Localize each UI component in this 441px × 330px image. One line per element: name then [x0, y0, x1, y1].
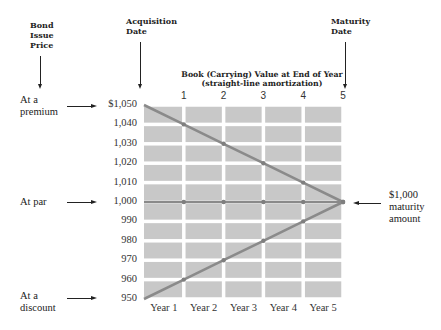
data-point	[221, 200, 225, 204]
grid-cell	[144, 204, 182, 220]
grid-cell	[225, 281, 261, 297]
grid-cell	[265, 126, 301, 142]
data-point	[261, 239, 265, 243]
grid-cell	[225, 107, 261, 123]
grid-cell	[144, 184, 182, 200]
grid-cell	[265, 262, 301, 278]
grid-cell	[144, 223, 182, 239]
grid-cell	[186, 146, 222, 162]
data-point	[182, 122, 186, 126]
data-point	[301, 200, 305, 204]
grid-cell	[305, 262, 341, 278]
grid-cell	[186, 281, 222, 297]
grid-cell	[305, 107, 341, 123]
grid-cell	[225, 165, 261, 181]
grid-cell	[225, 184, 261, 200]
grid-cell	[186, 204, 222, 220]
grid-cell	[305, 126, 341, 142]
grid-cell	[305, 281, 341, 297]
grid-cell	[144, 146, 182, 162]
grid-cell	[225, 262, 261, 278]
grid-cell	[144, 243, 182, 259]
data-point	[182, 200, 186, 204]
grid-cell	[144, 165, 182, 181]
grid-cell	[305, 165, 341, 181]
grid-cell	[305, 223, 341, 239]
grid-cell	[186, 223, 222, 239]
grid-cell	[225, 204, 261, 220]
grid-cell	[265, 204, 301, 220]
grid-cell	[265, 146, 301, 162]
grid-cell	[186, 184, 222, 200]
data-point	[221, 142, 225, 146]
grid-cell	[265, 107, 301, 123]
grid-cell	[225, 126, 261, 142]
carrying-value-chart	[0, 0, 441, 330]
grid-cell	[265, 243, 301, 259]
data-point	[301, 219, 305, 223]
data-point	[182, 277, 186, 281]
grid-cell	[186, 165, 222, 181]
data-point	[261, 161, 265, 165]
grid-cell	[265, 281, 301, 297]
grid-cell	[144, 126, 182, 142]
data-point	[301, 180, 305, 184]
grid-cell	[186, 107, 222, 123]
grid-cell	[144, 262, 182, 278]
data-point	[261, 200, 265, 204]
grid-cell	[305, 146, 341, 162]
grid-cell	[265, 184, 301, 200]
data-point	[221, 258, 225, 262]
grid-cell	[305, 243, 341, 259]
data-point	[341, 200, 345, 204]
grid-cell	[225, 223, 261, 239]
grid-cell	[186, 243, 222, 259]
